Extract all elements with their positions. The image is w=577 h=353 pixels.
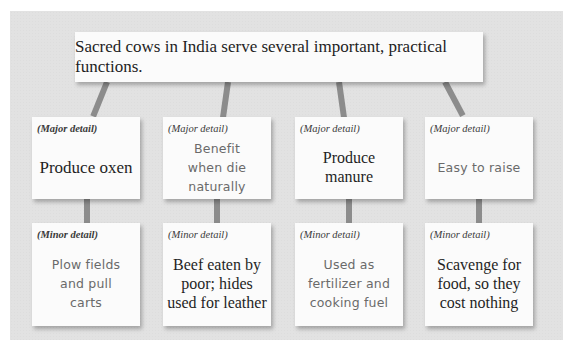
minor-detail-box-4: (Minor detail) Scavenge for food, so the… <box>425 223 533 326</box>
major-detail-label: (Major detail) <box>168 123 228 134</box>
major-detail-text: Produce oxen <box>32 135 140 199</box>
minor-detail-label: (Minor detail) <box>300 229 360 240</box>
minor-detail-text: Scavenge for food, so they cost nothing <box>425 241 533 326</box>
connector-major-minor-3 <box>346 199 352 223</box>
minor-detail-label: (Minor detail) <box>430 229 490 240</box>
connector-major-minor-1 <box>84 199 90 223</box>
major-detail-box-3: (Major detail) Produce manure <box>295 117 403 199</box>
minor-detail-text: Used as fertilizer and cooking fuel <box>295 241 403 326</box>
major-detail-label: (Major detail) <box>430 123 490 134</box>
major-detail-box-1: (Major detail) Produce oxen <box>32 117 140 199</box>
minor-detail-label: (Minor detail) <box>37 229 98 240</box>
minor-detail-label: (Minor detail) <box>168 229 228 240</box>
major-detail-box-4: (Major detail) Easy to raise <box>425 117 533 199</box>
connector-major-minor-2 <box>214 199 220 223</box>
minor-detail-box-3: (Minor detail) Used as fertilizer and co… <box>295 223 403 326</box>
topic-sentence: Sacred cows in India serve several impor… <box>75 37 483 77</box>
connector-major-minor-4 <box>476 199 482 223</box>
minor-detail-box-2: (Minor detail) Beef eaten by poor; hides… <box>163 223 271 326</box>
minor-detail-box-1: (Minor detail) Plow fields and pull cart… <box>32 223 140 326</box>
major-detail-text: Easy to raise <box>425 135 533 199</box>
major-detail-text: Benefit when die naturally <box>163 135 271 199</box>
minor-detail-text: Beef eaten by poor; hides used for leath… <box>163 241 271 326</box>
major-detail-box-2: (Major detail) Benefit when die naturall… <box>163 117 271 199</box>
topic-sentence-box: Sacred cows in India serve several impor… <box>75 32 483 82</box>
major-detail-label: (Major detail) <box>300 123 360 134</box>
minor-detail-text: Plow fields and pull carts <box>32 241 140 326</box>
major-detail-text: Produce manure <box>295 135 403 199</box>
major-detail-label: (Major detail) <box>37 123 97 134</box>
